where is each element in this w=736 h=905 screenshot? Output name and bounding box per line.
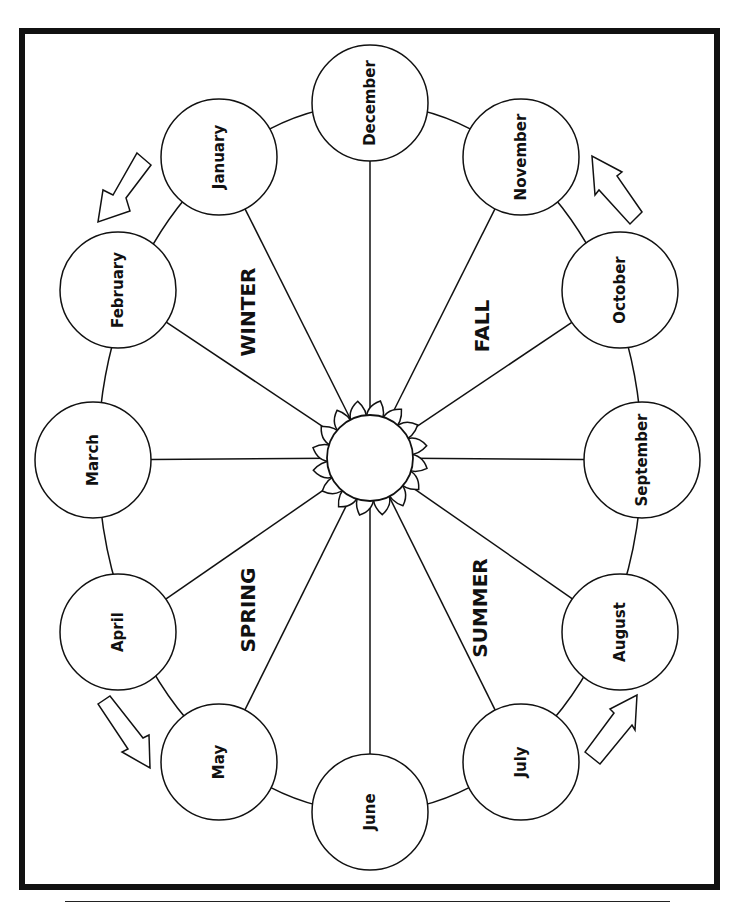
month-may: May xyxy=(161,704,277,820)
arrow-down-left-icon xyxy=(98,153,151,222)
season-label-winter: WINTER xyxy=(236,268,260,357)
month-label: October xyxy=(611,256,629,324)
month-september: September xyxy=(584,402,700,518)
month-november: November xyxy=(463,99,579,215)
spoke-march xyxy=(151,458,330,459)
season-label-spring: SPRING xyxy=(236,567,260,652)
seasons-diagram: DecemberJanuaryFebruaryMarchAprilMayJune… xyxy=(0,0,736,905)
month-august: August xyxy=(562,574,678,690)
month-june: June xyxy=(312,754,428,870)
month-label: May xyxy=(210,745,228,780)
month-label: November xyxy=(512,113,530,200)
arrow-up-left-icon xyxy=(592,156,642,224)
month-label: December xyxy=(361,60,379,146)
spoke-september xyxy=(410,458,584,459)
month-april: April xyxy=(60,574,176,690)
month-label: March xyxy=(84,434,102,486)
month-july: July xyxy=(463,704,579,820)
month-december: December xyxy=(312,45,428,161)
month-label: September xyxy=(633,413,651,507)
month-label: February xyxy=(109,252,127,328)
month-october: October xyxy=(562,232,678,348)
month-march: March xyxy=(35,402,151,518)
spoke-january xyxy=(245,209,352,422)
sun-icon xyxy=(313,401,427,515)
arrow-up-right-icon xyxy=(585,695,637,764)
month-label: July xyxy=(512,746,530,778)
month-february: February xyxy=(60,232,176,348)
month-january: January xyxy=(161,99,277,215)
month-label: April xyxy=(109,612,127,652)
month-label: January xyxy=(210,125,228,191)
arrow-down-right-icon xyxy=(98,696,150,768)
month-label: August xyxy=(611,602,629,662)
season-label-summer: SUMMER xyxy=(468,558,492,658)
season-label-fall: FALL xyxy=(470,300,494,353)
month-label: June xyxy=(361,793,379,831)
spoke-may xyxy=(245,494,352,710)
sun-disc xyxy=(327,415,413,501)
